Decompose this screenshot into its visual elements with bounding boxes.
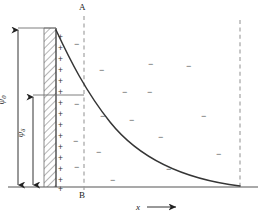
positive-ion-sign: + [58,99,63,108]
negative-ion-sign: − [74,100,79,109]
negative-ion-sign: − [96,148,101,157]
plane-b-label: B [79,191,85,200]
negative-ion-sign: − [122,88,127,97]
negative-ion-sign: − [186,62,191,71]
figure-canvas [0,0,265,223]
negative-ion-sign: − [148,60,153,69]
positive-ion-sign: + [58,185,63,194]
positive-ion-sign: + [58,110,63,119]
psi-delta-subscript: δ [19,129,26,132]
negative-ion-sign: − [110,176,115,185]
negative-ion-sign: − [74,163,79,172]
surface-potential-label: ψ0 [0,96,7,105]
stern-potential-label: ψδ [16,129,26,138]
positive-ion-sign: + [58,165,63,174]
positive-ion-sign: + [58,33,63,42]
negative-ion-sign: − [147,88,152,97]
negative-ion-sign: − [216,150,221,159]
positive-ion-sign: + [58,55,63,64]
negative-ion-sign: − [129,116,134,125]
charged-wall-hatch [44,28,56,187]
negative-ion-sign: − [74,40,79,49]
positive-ion-sign: + [58,121,63,130]
positive-ion-sign: + [58,154,63,163]
negative-ion-sign: − [158,133,163,142]
x-axis-label: x [136,203,140,212]
psi0-subscript: 0 [0,96,7,99]
negative-ion-sign: − [100,112,105,121]
positive-ion-sign: + [58,44,63,53]
negative-ion-sign: − [99,66,104,75]
negative-ion-sign: − [201,112,206,121]
double-layer-figure: A B x ψ0 ψδ +++++++++++++++−−−−−−−−−−−−−… [0,0,265,223]
psi0-symbol: ψ [0,99,6,105]
positive-ion-sign: + [58,66,63,75]
positive-ion-sign: + [58,88,63,97]
positive-ion-sign: + [58,132,63,141]
positive-ion-sign: + [58,143,63,152]
negative-ion-sign: − [73,137,78,146]
plane-a-label: A [79,3,86,12]
positive-ion-sign: + [58,77,63,86]
negative-ion-sign: − [166,165,171,174]
psi-delta-symbol: ψ [15,132,25,138]
